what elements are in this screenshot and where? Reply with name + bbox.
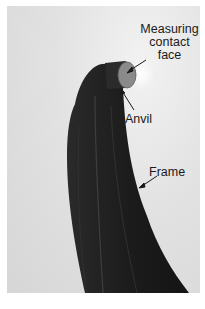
label-frame: Frame: [149, 166, 185, 179]
label-anvil: Anvil: [125, 113, 152, 126]
micrometer-photo: Measuring contact face Anvil Frame: [7, 6, 200, 293]
label-line: face: [132, 49, 200, 62]
label-measuring-contact-face: Measuring contact face: [132, 23, 200, 62]
measuring-contact-face: [118, 62, 136, 88]
arrowhead-icon: [139, 183, 145, 188]
